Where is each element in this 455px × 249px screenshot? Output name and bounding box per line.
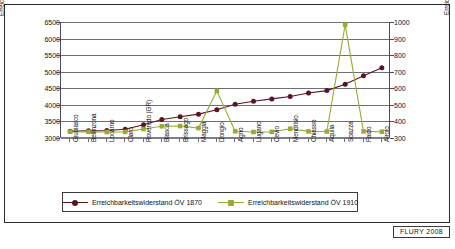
x-category-label: Faido [365,127,372,143]
data-point-marker [215,89,220,94]
x-tick-mark [161,138,162,142]
x-tick-mark [106,138,107,142]
right-tick-label: 300 [394,135,422,142]
right-tick-mark [390,138,394,139]
x-category-label: Mendrisio [292,115,299,142]
data-point-marker [361,73,366,78]
x-category-label: Lugano [255,121,262,142]
x-tick-mark [216,138,217,142]
x-category-label: Cevio [273,126,280,142]
x-tick-mark [289,138,290,142]
right-tick-label: 1000 [394,19,422,26]
data-point-marker [306,90,311,95]
x-category-label: Airolo [383,126,390,142]
legend-item-1870: Erreichbarkeitswiderstand ÖV 1870 [62,198,202,206]
x-category-label: Claro [127,127,134,142]
x-tick-mark [143,138,144,142]
legend-swatch-1910 [218,198,244,206]
x-tick-mark [344,138,345,142]
series-line [70,25,382,132]
x-category-label: Giubiasco [72,114,79,142]
data-point-marker [343,82,348,87]
legend-label-1870: Erreichbarkeitswiderstand ÖV 1870 [92,199,202,206]
x-tick-mark [326,138,327,142]
legend-marker [228,200,234,206]
x-category-label: Chiasso [310,120,317,142]
x-category-label: Soazza [347,121,354,142]
x-tick-mark [271,138,272,142]
x-category-label: Bellinzona [90,114,97,143]
data-point-marker [288,94,293,99]
right-tick-label: 500 [394,101,422,108]
x-tick-mark [198,138,199,142]
left-tick-mark [56,138,60,139]
legend-item-1910: Erreichbarkeitswiderstand ÖV 1910 [218,198,358,206]
source-attribution: FLURY 2008 [393,226,450,238]
x-tick-mark [253,138,254,142]
data-point-marker [324,88,329,93]
x-category-label: Brissago [182,118,189,142]
x-tick-mark [363,138,364,142]
legend-marker [72,200,78,206]
data-point-marker [251,99,256,104]
x-tick-mark [69,138,70,142]
x-category-label: Locarno [108,120,115,142]
x-category-label: Agno [237,127,244,142]
right-tick-label: 600 [394,85,422,92]
right-tick-label: 400 [394,118,422,125]
x-category-label: Aquila [328,125,335,142]
x-category-label: Maggia [200,122,207,142]
legend-swatch-1870 [62,198,88,206]
x-category-label: Biasca [163,123,170,142]
x-category-label: Roveredo (GR) [145,100,152,142]
data-point-marker [269,96,274,101]
x-tick-mark [124,138,125,142]
left-axis-title: Erreichbarkeitswiderstand ÖV 1870 [0,0,5,24]
chart-legend: Erreichbarkeitswiderstand ÖV 1870 Erreic… [62,192,358,212]
right-tick-label: 800 [394,52,422,59]
legend-label-1910: Erreichbarkeitswiderstand ÖV 1910 [248,199,358,206]
right-axis-title: Erreichbarkeitswiderstand ÖV 1910 [443,0,450,24]
data-point-marker [159,117,164,122]
data-point-marker [214,107,219,112]
data-point-marker [343,22,348,27]
series-line [70,68,382,131]
x-category-label: Dongio [218,122,225,142]
data-point-marker [379,65,384,70]
x-tick-mark [179,138,180,142]
figure-container: Erreichbarkeitswiderstand ÖV 1870 Erreic… [0,0,455,249]
x-tick-mark [234,138,235,142]
x-tick-mark [308,138,309,142]
right-tick-label: 900 [394,35,422,42]
x-tick-mark [88,138,89,142]
data-point-marker [196,112,201,117]
data-point-marker [233,102,238,107]
right-tick-label: 700 [394,68,422,75]
x-tick-mark [381,138,382,142]
